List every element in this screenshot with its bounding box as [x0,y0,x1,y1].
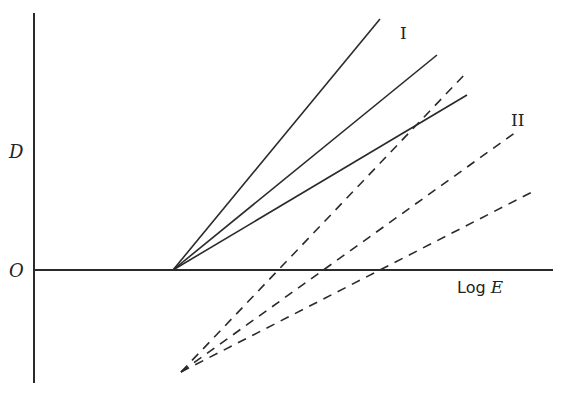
diagram-canvas: D O Log E I II [0,0,566,395]
solid-curve-1 [173,19,380,270]
solid-curve-2 [173,55,437,270]
dashed-curve-1 [181,72,467,372]
group-i-label: I [400,23,407,43]
group-ii-dashed-lines [181,72,536,372]
x-axis-label: Log E [457,277,504,297]
x-axis-label-var: E [490,277,504,297]
group-i-solid-lines [173,19,467,270]
origin-label: O [9,260,24,281]
dashed-curve-2 [181,132,516,372]
x-axis-label-log: Log [457,278,491,297]
group-ii-label: II [511,110,524,130]
y-axis-label: D [8,141,24,162]
solid-curve-3 [173,95,467,270]
characteristic-curve-diagram: D O Log E I II [0,0,566,395]
